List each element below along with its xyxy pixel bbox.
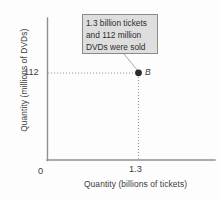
callout-line-2: and 112 million xyxy=(86,29,157,41)
chart-figure: Quantity (millions of DVDs) Quantity (bi… xyxy=(0,0,220,199)
y-axis-tick-label-112: 112 xyxy=(24,68,39,77)
data-point-label-b: B xyxy=(145,68,151,77)
x-axis-title: Quantity (billions of tickets) xyxy=(84,180,187,188)
x-axis-tick-label-0: 0 xyxy=(38,167,43,176)
callout-line-3: DVDs were sold xyxy=(86,41,157,53)
y-axis-title: Quantity (millions of DVDs) xyxy=(20,24,28,136)
callout-leader-line xyxy=(124,54,138,71)
x-axis-tick-label-1-3: 1.3 xyxy=(129,165,142,174)
callout-line-1: 1.3 billion tickets xyxy=(86,17,157,29)
data-point-b xyxy=(135,69,142,76)
point-b-callout-box: 1.3 billion tickets and 112 million DVDs… xyxy=(82,14,158,54)
